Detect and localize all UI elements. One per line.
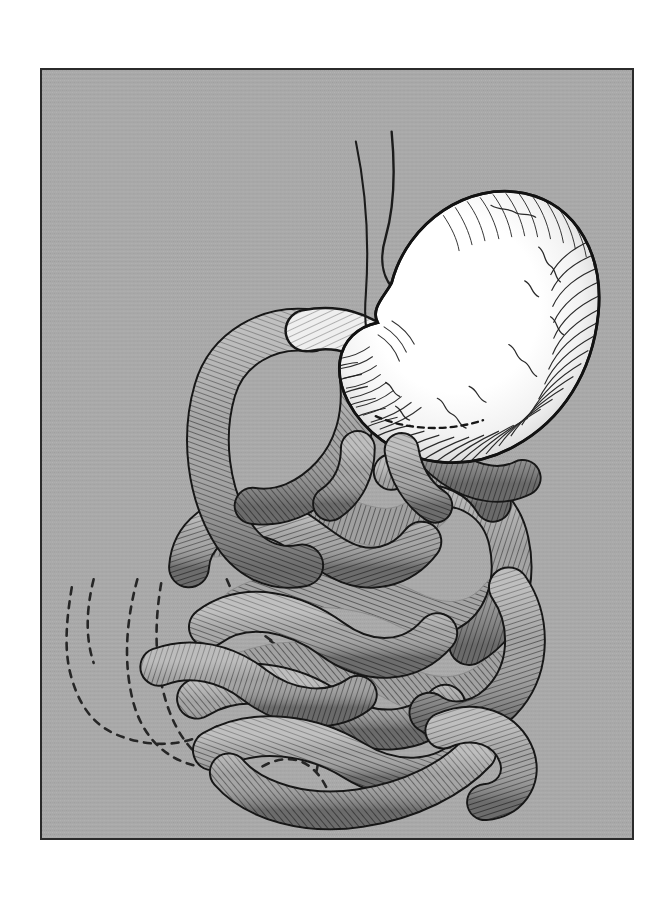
plate-caption bbox=[40, 846, 634, 886]
illustration-page: Esophagus Stomach Dashed resection line … bbox=[0, 0, 666, 899]
anatomy-illustration-svg bbox=[42, 70, 632, 838]
structure-index: Esophagus Stomach Dashed resection line … bbox=[0, 0, 1, 1]
illustration-plate-frame bbox=[40, 68, 634, 840]
structure-label-esophagus: Esophagus bbox=[0, 0, 1, 1]
